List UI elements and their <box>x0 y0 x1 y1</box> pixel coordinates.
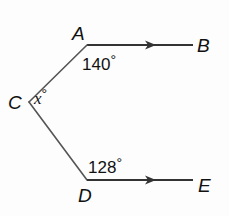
point-label-e: E <box>198 175 211 196</box>
point-label-a: A <box>71 23 85 44</box>
point-label-b: B <box>197 35 210 56</box>
segment-cd <box>29 102 87 180</box>
point-label-d: D <box>78 185 92 206</box>
point-label-c: C <box>8 92 22 113</box>
angle-label-c: x° <box>33 86 47 108</box>
angle-label-a: 140° <box>82 52 116 74</box>
geometry-diagram: A B C D E 140° x° 128° <box>0 0 229 216</box>
angle-label-d: 128° <box>88 155 122 177</box>
